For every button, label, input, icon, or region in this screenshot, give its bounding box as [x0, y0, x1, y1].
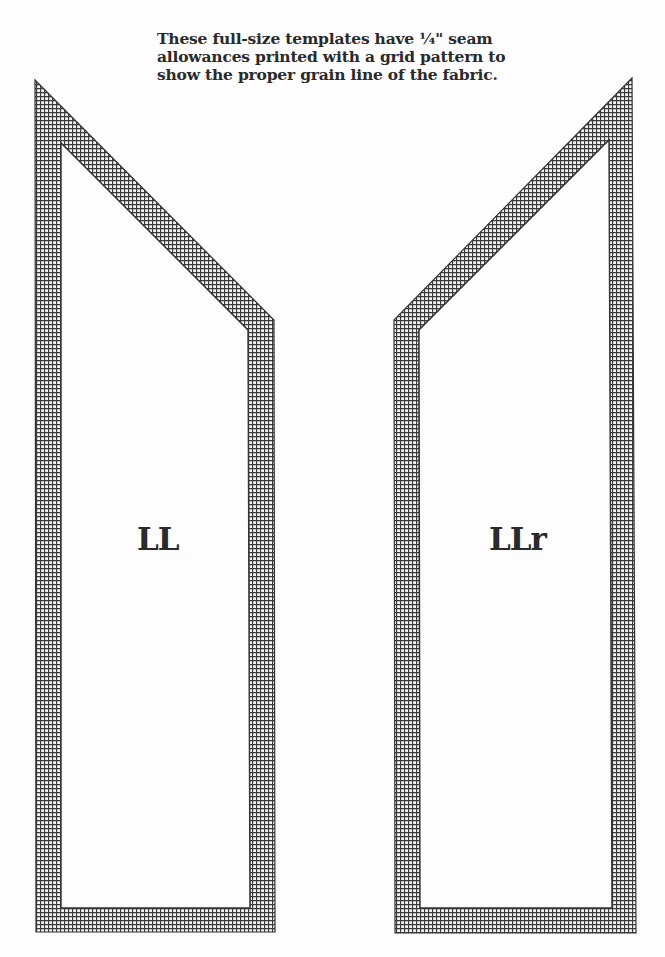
template-label-llr: LLr [489, 524, 546, 555]
template-label-ll: LL [137, 524, 179, 555]
templates-canvas [0, 0, 665, 957]
template-ll [35, 80, 275, 932]
template-llr [394, 78, 636, 933]
